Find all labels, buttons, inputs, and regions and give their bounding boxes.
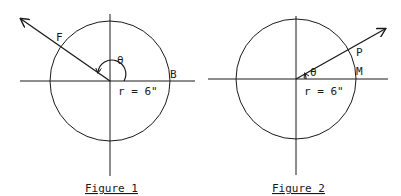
diagram-canvas: θ F B r = 6" Figure 1 θ P M r = 6" Figur… <box>0 0 401 196</box>
point-f-label: F <box>56 31 63 44</box>
figure-2: θ P M r = 6" Figure 2 <box>208 16 388 195</box>
point-p-label: P <box>356 46 363 59</box>
angle-label: θ <box>310 66 317 79</box>
radius-label: r = 6" <box>304 85 344 98</box>
point-b-label: B <box>170 68 177 81</box>
radius-label: r = 6" <box>118 85 158 98</box>
figure-1: θ F B r = 6" Figure 1 <box>20 14 195 195</box>
point-m-label: M <box>356 65 363 78</box>
angle-label: θ <box>117 54 124 67</box>
figure-caption: Figure 1 <box>85 182 138 195</box>
terminal-ray-arrow <box>21 19 110 81</box>
figure-caption: Figure 2 <box>272 182 325 195</box>
angle-arc <box>305 74 306 79</box>
